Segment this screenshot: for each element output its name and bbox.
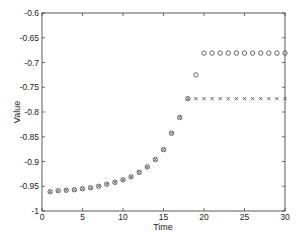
x-tick-label: 20 [199, 212, 209, 222]
cross-marker [57, 189, 60, 192]
cross-marker [113, 181, 116, 184]
x-tick-label: 0 [40, 212, 45, 222]
cross-marker [211, 97, 214, 100]
cross-marker [186, 97, 189, 100]
cross-marker [105, 183, 108, 186]
y-tick-label: -1 [31, 206, 39, 216]
cross-marker [73, 188, 76, 191]
x-tick-label: 15 [159, 212, 169, 222]
cross-marker [65, 189, 68, 192]
y-tick-label: -0.6 [24, 8, 39, 18]
circle-marker [275, 51, 279, 55]
cross-marker [227, 97, 230, 100]
cross-marker [259, 97, 262, 100]
cross-marker [194, 97, 197, 100]
cross-marker [243, 97, 246, 100]
y-tick-label: -0.85 [20, 132, 40, 142]
cross-marker [170, 132, 173, 135]
circle-marker [210, 51, 214, 55]
cross-marker [146, 165, 149, 168]
cross-marker [267, 97, 270, 100]
cross-marker [251, 97, 254, 100]
x-tick-label: 30 [280, 212, 290, 222]
plot-frame [42, 13, 285, 211]
cross-marker [130, 175, 133, 178]
cross-marker [162, 148, 165, 151]
cross-marker [97, 185, 100, 188]
cross-marker [81, 187, 84, 190]
cross-marker [89, 186, 92, 189]
circle-marker [259, 51, 263, 55]
cross-marker [138, 171, 141, 174]
circle-marker [234, 51, 238, 55]
circle-marker [194, 73, 198, 77]
y-tick-label: -0.95 [20, 181, 40, 191]
cross-marker [219, 97, 222, 100]
plot-area-border [42, 13, 285, 211]
y-tick-label: -0.75 [20, 82, 40, 92]
circle-marker [218, 51, 222, 55]
cross-marker [178, 116, 181, 119]
x-tick-label: 10 [118, 212, 128, 222]
y-tick-label: -0.65 [20, 33, 40, 43]
circle-marker [226, 51, 230, 55]
y-axis-label: Value [12, 101, 22, 123]
scatter-chart: 051015202530-1-0.95-0.9-0.85-0.8-0.75-0.… [0, 0, 304, 238]
circle-marker [242, 51, 246, 55]
cross-marker [202, 97, 205, 100]
x-axis-label: Time [153, 222, 173, 232]
y-tick-label: -0.8 [24, 107, 39, 117]
cross-marker [275, 97, 278, 100]
circle-marker [250, 51, 254, 55]
cross-marker [121, 178, 124, 181]
cross-marker [154, 158, 157, 161]
y-tick-label: -0.9 [24, 157, 39, 167]
y-tick-label: -0.7 [24, 58, 39, 68]
data-points [48, 51, 287, 194]
cross-marker [49, 190, 52, 193]
cross-marker [235, 97, 238, 100]
circle-marker [267, 51, 271, 55]
circle-marker [202, 51, 206, 55]
x-tick-label: 25 [240, 212, 250, 222]
x-tick-label: 5 [80, 212, 85, 222]
